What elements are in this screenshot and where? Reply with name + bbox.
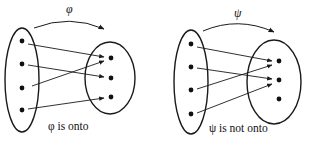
- phi-map-arc-arrow: [34, 21, 104, 29]
- phi-codomain-points: [109, 56, 114, 100]
- psi-map-arc-arrow: [203, 24, 274, 32]
- phi-symbol: φ: [66, 2, 73, 16]
- psi-domain-points: [189, 42, 194, 117]
- function-mapping-diagram: φ φ is onto ψ ψ is not onto: [0, 0, 316, 146]
- psi-codomain-points: [277, 59, 282, 102]
- phi-diagram: φ φ is onto: [5, 2, 135, 133]
- psi-diagram: ψ ψ is not onto: [174, 6, 301, 135]
- phi-caption: φ is onto: [48, 120, 89, 133]
- phi-domain-points: [20, 39, 25, 113]
- psi-codomain-set: [247, 40, 301, 124]
- psi-symbol: ψ: [234, 6, 242, 20]
- psi-caption: ψ is not onto: [209, 122, 268, 135]
- phi-domain-set: [5, 28, 39, 132]
